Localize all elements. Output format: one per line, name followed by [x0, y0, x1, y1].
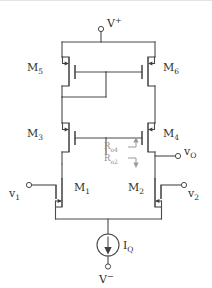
output-terminal-circle [175, 153, 180, 158]
Ro4-label: Ro4 [104, 141, 118, 153]
transistor-M2: M2 v2 [128, 178, 199, 219]
v-plus-label: V+ [106, 16, 122, 30]
output-node-group: vO [155, 145, 196, 160]
current-source-arrowhead-down [104, 247, 111, 255]
supply-positive-group [62, 26, 155, 57]
output-label: vO [183, 145, 196, 160]
transistor-M1: M1 v1 [8, 178, 90, 219]
v-minus-label: V− [98, 272, 114, 286]
M6-label: M6 [163, 61, 179, 76]
circuit-schematic-figure: M5 M6 [0, 0, 212, 288]
Ro2-pointer-line [128, 158, 136, 163]
current-source-label: IQ [123, 239, 134, 254]
annotation-Ro4: Ro4 [104, 137, 139, 153]
transistor-M3: M3 [27, 123, 106, 178]
M2-label: M2 [128, 181, 144, 196]
M3-label: M3 [27, 127, 43, 142]
v-plus-terminal-circle [98, 26, 103, 31]
v-minus-terminal-circle [105, 264, 110, 269]
transistor-M5: M5 [27, 57, 106, 97]
Ro2-arrowhead-down [133, 163, 138, 169]
M1-label: M1 [74, 181, 90, 196]
v2-terminal-circle [181, 182, 186, 187]
M5-label: M5 [27, 61, 43, 76]
v2-label: v2 [187, 187, 199, 202]
transistor-M6: M6 [106, 57, 179, 123]
v1-label: v1 [8, 187, 20, 202]
tail-current-source-group: IQ V− [56, 219, 162, 286]
circuit-svg: M5 M6 [0, 1, 212, 288]
v1-terminal-circle [26, 182, 31, 187]
annotation-Ro2: Ro2 [104, 153, 139, 168]
Ro2-label: Ro2 [104, 153, 118, 165]
M4-label: M4 [163, 127, 179, 142]
